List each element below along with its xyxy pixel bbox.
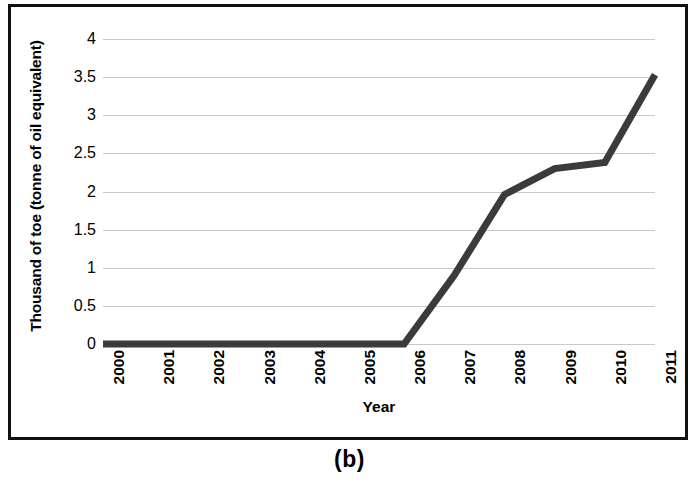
- x-axis-tick-label: 2002: [211, 350, 227, 384]
- chart-area: Thousand of toe (tonne of oil equivalent…: [11, 7, 685, 437]
- y-axis-tick-label: 3.5: [74, 69, 96, 85]
- x-axis-tick-label: 2011: [663, 350, 679, 384]
- y-axis-title: Thousand of toe (tonne of oil equivalent…: [27, 11, 45, 361]
- series-polyline: [103, 75, 655, 344]
- x-axis-tick-label: 2004: [312, 350, 328, 384]
- y-axis-tick-label: 1: [87, 259, 96, 275]
- figure-frame: Thousand of toe (tonne of oil equivalent…: [8, 4, 688, 440]
- y-axis-tick-label: 1.5: [74, 221, 96, 237]
- x-axis-tick-label: 2005: [362, 350, 378, 384]
- y-axis-tick-label: 0: [87, 336, 96, 352]
- x-axis-tick-label: 2006: [412, 350, 428, 384]
- x-axis-tick-label: 2010: [613, 350, 629, 384]
- figure-caption: (b): [0, 446, 699, 473]
- y-axis-tick-label: 2: [87, 183, 96, 199]
- y-axis-tick-label: 4: [87, 31, 96, 47]
- y-axis-tick-label: 3: [87, 107, 96, 123]
- x-axis-tick-label: 2000: [111, 350, 127, 384]
- x-axis-tick-label: 2003: [262, 350, 278, 384]
- x-axis-tick-label: 2008: [512, 350, 528, 384]
- x-axis-tick-label: 2009: [563, 350, 579, 384]
- y-axis-tick-label: 0.5: [74, 298, 96, 314]
- line-series: [103, 39, 655, 344]
- plot-area: 00.511.522.533.54 2000200120022003200420…: [103, 39, 655, 344]
- y-axis-tick-label: 2.5: [74, 145, 96, 161]
- x-axis-title: Year: [103, 398, 655, 416]
- x-axis-tick-label: 2007: [462, 350, 478, 384]
- x-axis-tick-label: 2001: [161, 350, 177, 384]
